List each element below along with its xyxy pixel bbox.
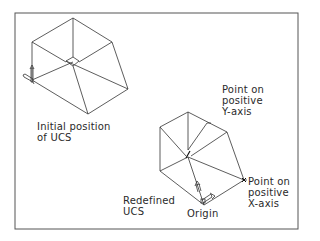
label-initial-ucs: Initial position of UCS xyxy=(37,121,111,143)
label-origin: Origin xyxy=(187,208,218,219)
label-redefined-ucs: Redefined UCS xyxy=(123,195,175,217)
y-axis-point-marker xyxy=(186,151,190,158)
label-point-x-axis: Point on positive X-axis xyxy=(248,176,290,209)
label-point-y-axis: Point on positive Y-axis xyxy=(222,84,264,117)
frustum-redefined xyxy=(160,112,247,205)
frustum-initial xyxy=(32,18,128,114)
